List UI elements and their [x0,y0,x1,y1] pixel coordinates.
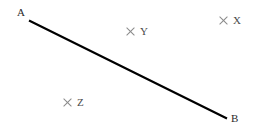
point-marker-x: X [218,15,241,26]
point-marker-z-label: Z [77,97,84,108]
cross-marker-icon [125,26,136,37]
cross-marker-icon [62,97,73,108]
point-marker-y-label: Y [140,26,148,37]
point-label-a: A [17,7,25,18]
point-marker-x-label: X [233,15,241,26]
point-marker-y: Y [125,26,148,37]
cross-marker-icon [218,15,229,26]
point-marker-z: Z [62,97,84,108]
point-label-b: B [231,113,238,124]
geometry-diagram: A B X Y Z [0,0,260,139]
